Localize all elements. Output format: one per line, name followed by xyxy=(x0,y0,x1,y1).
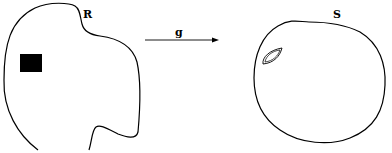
diagram-canvas xyxy=(0,0,392,153)
region-s-outline xyxy=(254,21,385,143)
arrow-head-icon xyxy=(212,38,219,43)
region-r-outline xyxy=(4,3,140,150)
filled-rectangle xyxy=(20,54,42,72)
map-label: g xyxy=(175,27,183,38)
region-s-label: S xyxy=(333,9,341,20)
lens-shape-icon xyxy=(263,48,282,64)
region-r-label: R xyxy=(83,9,92,20)
